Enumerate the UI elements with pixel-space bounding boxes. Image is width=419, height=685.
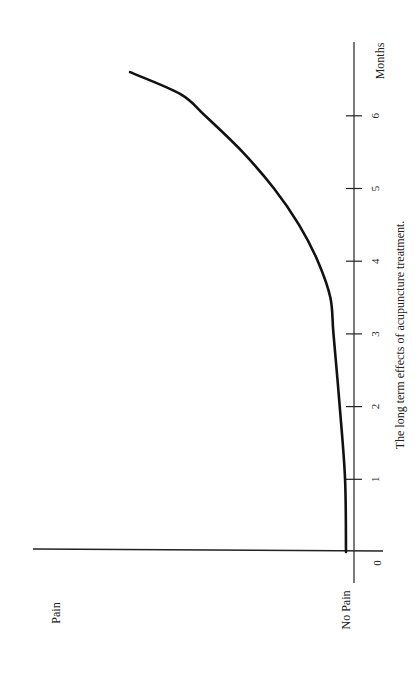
chart-caption: The long term effects of acupuncture tre… [393, 221, 407, 450]
month-tick-label: 6 [369, 113, 381, 119]
x-axis-label: Months [373, 42, 387, 79]
month-tick-label: 5 [369, 185, 381, 191]
no-pain-label: No Pain [339, 591, 353, 630]
month-tick-labels: 0123456 [369, 113, 383, 566]
month-tick-label: 2 [369, 404, 381, 410]
pain-label: Pain [49, 602, 63, 623]
month-tick-label: 3 [369, 331, 381, 337]
pain-curve [130, 72, 346, 552]
pain-axis [33, 549, 383, 551]
month-tick-label: 0 [371, 560, 383, 566]
month-tick-label: 4 [369, 258, 381, 264]
chart: 0123456 Months Pain No Pain The long ter… [0, 0, 419, 685]
month-tick-label: 1 [369, 477, 381, 483]
